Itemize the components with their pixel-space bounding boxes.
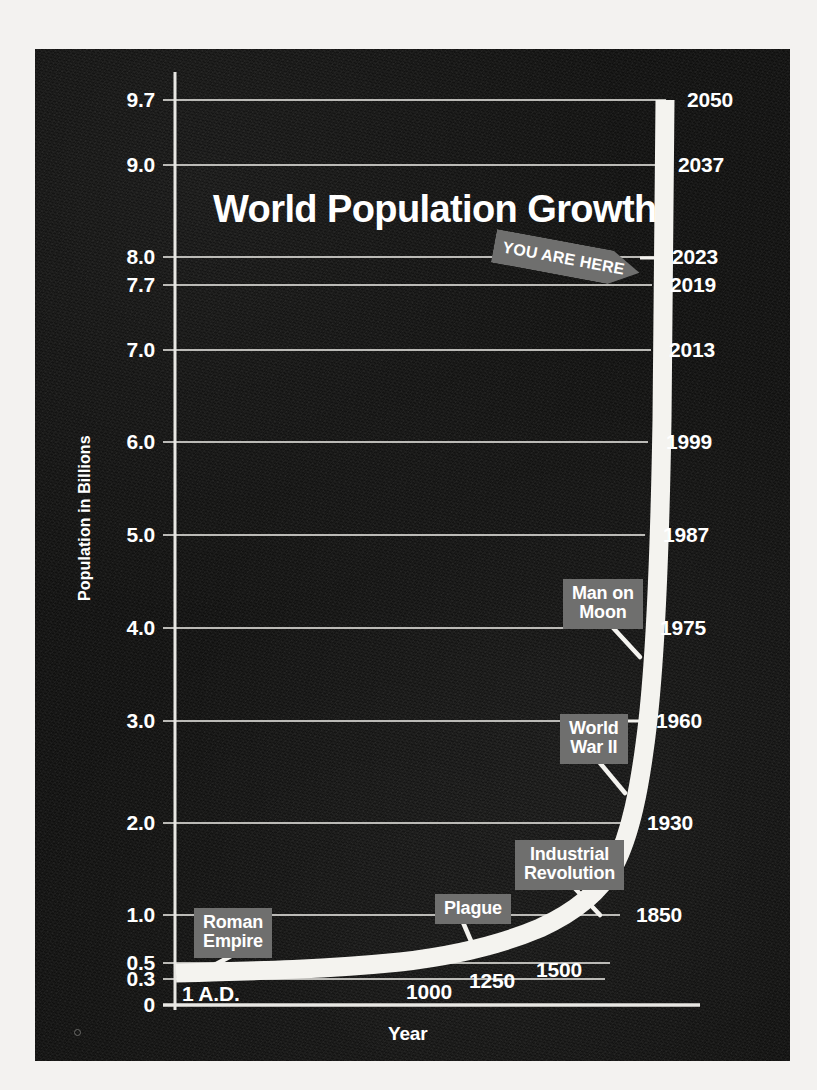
year-marker-label: 2023 <box>672 245 718 269</box>
y-tick-label: 6.0 <box>93 430 155 454</box>
y-tick-label: 7.0 <box>93 338 155 362</box>
year-marker-label: 1850 <box>636 903 682 927</box>
y-tick-label: 7.7 <box>93 273 155 297</box>
y-tick-label: 1.0 <box>93 903 155 927</box>
x-tick-label: 1 A.D. <box>182 982 240 1006</box>
x-tick-label: 1250 <box>469 969 515 993</box>
y-tick-label: 3.0 <box>93 709 155 733</box>
y-tick-label: 9.7 <box>93 88 155 112</box>
registration-dot <box>74 1029 81 1036</box>
year-marker-label: 2037 <box>678 153 724 177</box>
year-marker-label: 1930 <box>647 811 693 835</box>
y-axis-title: Population in Billions <box>76 435 94 601</box>
y-tick-label: 0.3 <box>93 967 155 991</box>
year-marker-label: 2019 <box>670 273 716 297</box>
year-marker-label: 1999 <box>666 430 712 454</box>
x-axis-title: Year <box>388 1023 427 1045</box>
callout-plague: Plague <box>435 894 511 924</box>
callout-industrial-revolution: Industrial Revolution <box>515 840 624 890</box>
x-tick-label: 1000 <box>406 980 452 1004</box>
y-tick-label: 8.0 <box>93 245 155 269</box>
page-title: World Population Growth <box>213 188 657 231</box>
year-marker-label: 2013 <box>669 338 715 362</box>
callout-roman-empire: Roman Empire <box>194 908 272 958</box>
y-tick-label: 4.0 <box>93 616 155 640</box>
year-marker-label: 2050 <box>687 88 733 112</box>
callout-man-on-moon: Man on Moon <box>563 579 643 629</box>
year-marker-label: 1975 <box>660 616 706 640</box>
y-tick-label: 5.0 <box>93 523 155 547</box>
year-marker-label: 1960 <box>656 709 702 733</box>
year-marker-label: 1987 <box>663 523 709 547</box>
y-tick-label: 0 <box>93 993 155 1017</box>
y-tick-label: 9.0 <box>93 153 155 177</box>
y-tick-label: 2.0 <box>93 811 155 835</box>
x-tick-label: 1500 <box>536 958 582 982</box>
callout-world-war-ii: World War II <box>560 714 628 764</box>
poster-canvas: World Population Growth Population in Bi… <box>0 0 817 1090</box>
